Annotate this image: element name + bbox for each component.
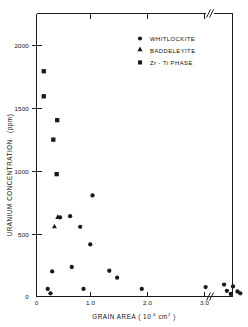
figure-container: 0 1.0 2.0 3.0 0 500 1000 1500 2000 URANI… (0, 0, 248, 327)
data-point-circle (78, 225, 82, 229)
y-axis-title-main: URANIUM CONCENTRATION (6, 139, 13, 236)
x-tick-label-1: 1.0 (86, 299, 96, 306)
data-point-circle (70, 265, 74, 269)
data-point-circle (107, 269, 111, 273)
circle-marker-icon (138, 36, 142, 40)
data-point-circle (88, 242, 92, 246)
data-point-circle (238, 291, 242, 295)
data-point-square (51, 137, 55, 141)
x-tick-label-3: 3.0 (200, 299, 210, 306)
data-point-circle (81, 287, 85, 291)
data-point-circle (115, 276, 119, 280)
x-axis-title: GRAIN AREA ( 10-6 cm2 ) (92, 312, 176, 321)
svg-text:GRAIN AREA ( 10-6 cm2 ): GRAIN AREA ( 10-6 cm2 ) (92, 312, 176, 321)
square-marker-icon (138, 60, 142, 64)
data-point-circle (50, 269, 54, 273)
y-tick-label-500: 500 (18, 231, 29, 238)
data-point-circle (203, 285, 207, 289)
data-point-circle (48, 291, 52, 295)
data-point-square (42, 69, 46, 73)
data-point-circle (225, 289, 229, 293)
x-axis-title-middle: cm (156, 313, 168, 320)
data-point-circle (222, 282, 226, 286)
svg-text:URANIUM CONCENTRATION: URANIUM CONCENTRATION (ppm) (6, 114, 14, 237)
y-axis-title: URANIUM CONCENTRATION (ppm) (6, 114, 14, 237)
x-axis-title-suffix: ) (171, 313, 176, 321)
data-point-circle (140, 287, 144, 291)
chart-background (0, 0, 248, 327)
data-point-circle (46, 287, 50, 291)
y-tick-label-1000: 1000 (14, 168, 29, 175)
y-axis-title-units: (ppm) (6, 114, 14, 133)
x-tick-label-2: 2.0 (143, 299, 153, 306)
data-point-circle (231, 284, 235, 288)
legend-label-zr-ti-phase: Zr - Ti PHASE (150, 60, 193, 66)
x-axis-title-prefix: GRAIN AREA ( 10 (92, 313, 151, 321)
data-point-circle (229, 292, 233, 296)
data-point-square (55, 118, 59, 122)
uranium-concentration-scatter-plot: 0 1.0 2.0 3.0 0 500 1000 1500 2000 URANI… (0, 0, 248, 327)
data-point-circle (90, 193, 94, 197)
y-tick-label-0: 0 (25, 293, 29, 300)
legend-label-baddeleyite: BADDELEYITE (150, 48, 196, 54)
y-tick-label-2000: 2000 (14, 42, 29, 49)
data-point-circle (68, 214, 72, 218)
data-point-square (55, 172, 59, 176)
legend-label-whitlockite: WHITLOCKITE (150, 36, 195, 42)
y-tick-label-1500: 1500 (14, 105, 29, 112)
data-point-square (42, 94, 46, 98)
x-tick-label-0: 0 (35, 299, 39, 306)
